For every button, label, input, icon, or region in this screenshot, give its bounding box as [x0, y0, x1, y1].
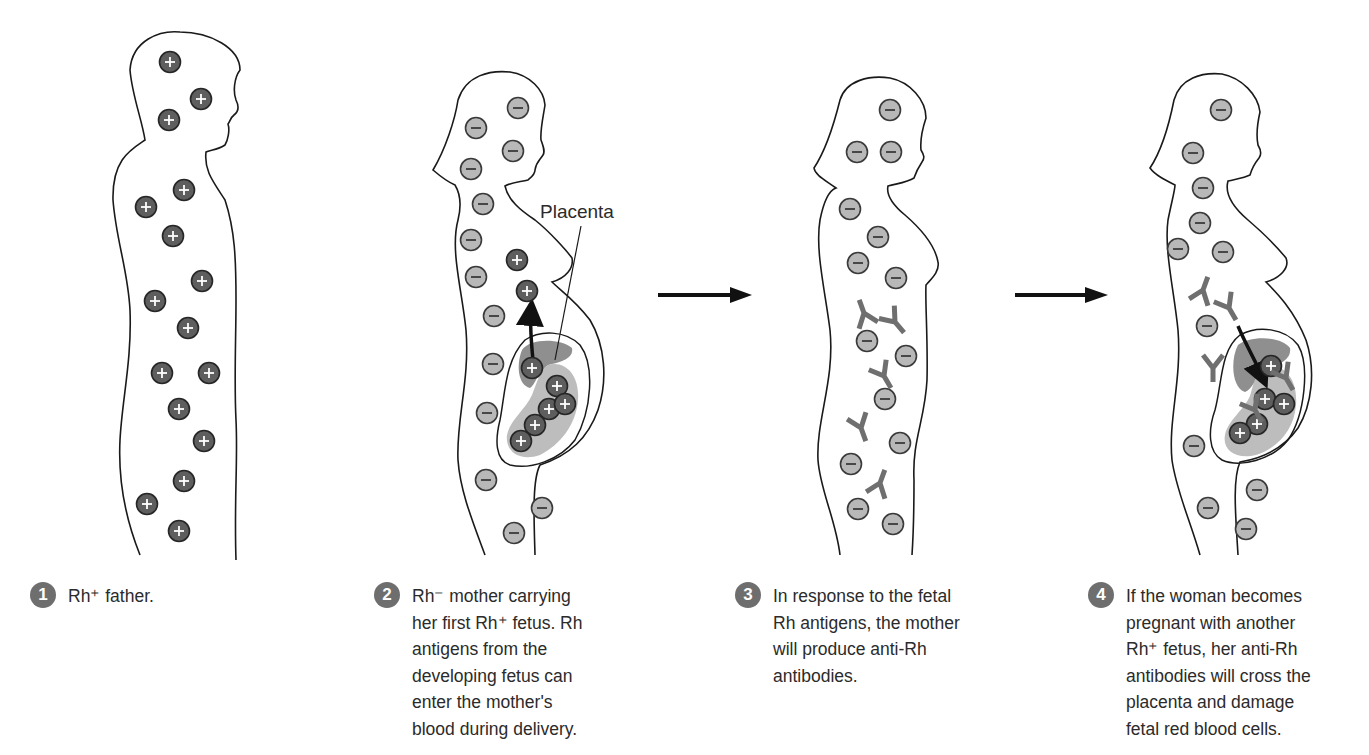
step-description: In response to the fetal Rh antigens, th…	[773, 583, 960, 689]
step-number-badge: 2	[374, 582, 400, 608]
placenta-leader-line	[555, 226, 581, 360]
rh-incompatibility-diagram: Placenta 1 Rh⁺ father. 2 Rh⁻ mother carr…	[0, 0, 1369, 755]
rh-positive-cell-icon	[174, 471, 195, 492]
step-4-caption: 4 If the woman becomes pregnant with ano…	[1088, 583, 1311, 742]
mother-antibodies-figure	[814, 77, 938, 555]
rh-positive-cell-icon	[152, 363, 173, 384]
mother-first-pregnancy-figure	[433, 72, 604, 555]
step-number-badge: 1	[30, 582, 56, 608]
rh-negative-cell-icon	[1198, 498, 1219, 519]
step-description: Rh⁺ father.	[68, 583, 154, 610]
rh-positive-cell-icon	[169, 521, 190, 542]
step-description: Rh⁻ mother carrying her first Rh⁺ fetus.…	[412, 583, 582, 742]
rh-negative-cell-icon	[473, 194, 494, 215]
rh-negative-cell-icon	[840, 199, 861, 220]
anti-rh-antibody-icon	[1214, 292, 1245, 325]
anti-rh-antibody-icon	[1203, 355, 1223, 382]
step-number-badge: 3	[735, 582, 761, 608]
rh-positive-cell-icon	[174, 180, 195, 201]
rh-positive-cell-icon	[136, 197, 157, 218]
rh-negative-cell-icon	[847, 142, 868, 163]
blood-cells	[840, 100, 917, 535]
rh-negative-cell-icon	[484, 306, 505, 327]
rh-positive-cell-icon	[507, 250, 528, 271]
rh-negative-cell-icon	[841, 454, 862, 475]
rh-negative-cell-icon	[1236, 519, 1257, 540]
anti-rh-antibody-icon	[847, 412, 875, 444]
antigen-transfer-arrow	[531, 312, 533, 360]
step-2-caption: 2 Rh⁻ mother carrying her first Rh⁺ fetu…	[374, 583, 582, 742]
rh-negative-cell-icon	[1168, 239, 1189, 260]
rh-negative-cell-icon	[532, 498, 553, 519]
rh-negative-cell-icon	[461, 230, 482, 251]
placenta-label: Placenta	[540, 201, 614, 223]
mother-second-pregnancy-figure	[1150, 74, 1312, 555]
rh-positive-cell-icon	[163, 226, 184, 247]
rh-negative-cell-icon	[848, 499, 869, 520]
step-number-badge: 4	[1088, 582, 1114, 608]
rh-negative-cell-icon	[857, 331, 878, 352]
rh-negative-cell-icon	[504, 523, 525, 544]
anti-rh-antibody-icon	[850, 296, 878, 328]
rh-positive-cell-icon	[191, 89, 212, 110]
step-3-caption: 3 In response to the fetal Rh antigens, …	[735, 583, 960, 689]
rh-negative-cell-icon	[466, 118, 487, 139]
rh-negative-cell-icon	[1213, 242, 1234, 263]
progression-arrow-2	[1015, 287, 1108, 303]
rh-negative-cell-icon	[883, 514, 904, 535]
rh-negative-cell-icon	[868, 227, 889, 248]
anti-rh-antibody-icon	[866, 466, 894, 498]
rh-positive-cells	[136, 52, 220, 542]
rh-positive-cell-icon	[194, 431, 215, 452]
progression-arrow-1	[658, 287, 752, 303]
rh-positive-cell-icon	[169, 399, 190, 420]
fetal-rh-positive-cell-icon	[1230, 423, 1251, 444]
rh-negative-cell-icon	[1211, 100, 1232, 121]
anti-rh-antibody-icon	[1189, 273, 1217, 305]
rh-negative-cell-icon	[1197, 316, 1218, 337]
rh-positive-cell-icon	[192, 271, 213, 292]
rh-positive-cell-icon	[137, 494, 158, 515]
rh-negative-cell-icon	[1247, 480, 1268, 501]
rh-negative-cell-icon	[1184, 436, 1205, 457]
rh-negative-cell-icon	[896, 346, 917, 367]
rh-positive-cell-icon	[159, 110, 180, 131]
fetal-rh-positive-cell-icon	[522, 358, 543, 379]
rh-negative-cell-icon	[483, 354, 504, 375]
blood-cells	[461, 98, 576, 544]
fetal-rh-positive-cell-icon	[511, 431, 532, 452]
rh-negative-cell-icon	[503, 141, 524, 162]
rh-negative-cell-icon	[466, 267, 487, 288]
rh-negative-cell-icon	[890, 433, 911, 454]
rh-negative-cell-icon	[880, 100, 901, 121]
anti-rh-antibody-icon	[879, 306, 912, 340]
rh-positive-cell-icon	[160, 52, 181, 73]
fetal-rh-positive-cell-icon	[555, 394, 576, 415]
rh-negative-cell-icon	[1190, 213, 1211, 234]
rh-positive-cell-icon	[199, 363, 220, 384]
rh-negative-cell-icon	[461, 159, 482, 180]
rh-negative-cell-icon	[508, 98, 529, 119]
fetal-rh-positive-cell-icon	[1274, 394, 1295, 415]
rh-negative-cell-icon	[848, 253, 869, 274]
rh-positive-cell-icon	[178, 318, 199, 339]
rh-positive-cell-icon	[145, 291, 166, 312]
rh-positive-cell-icon	[517, 281, 538, 302]
rh-negative-cell-icon	[881, 142, 902, 163]
rh-negative-cell-icon	[875, 389, 896, 410]
step-description: If the woman becomes pregnant with anoth…	[1126, 583, 1311, 742]
rh-negative-cell-icon	[1193, 178, 1214, 199]
rh-negative-cell-icon	[476, 470, 497, 491]
rh-negative-cell-icon	[886, 268, 907, 289]
blood-cells	[1168, 100, 1302, 540]
father-figure	[113, 32, 240, 560]
rh-negative-cell-icon	[1183, 143, 1204, 164]
rh-negative-cell-icon	[477, 403, 498, 424]
step-1-caption: 1 Rh⁺ father.	[30, 583, 154, 610]
